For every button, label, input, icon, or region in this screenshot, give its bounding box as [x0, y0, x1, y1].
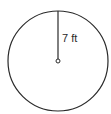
center-point — [56, 59, 60, 63]
circle-diagram: 7 ft — [0, 0, 111, 114]
radius-label: 7 ft — [62, 32, 77, 44]
